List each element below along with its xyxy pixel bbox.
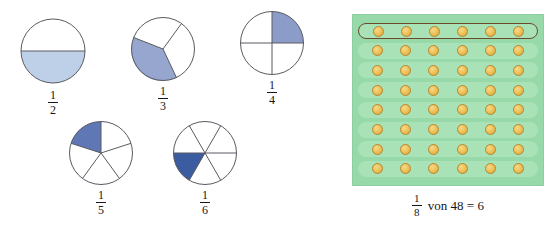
grid-dot bbox=[428, 124, 439, 135]
fraction-circle-one-third bbox=[130, 16, 196, 82]
fraction-item-one-quarter: 1 4 bbox=[239, 10, 305, 108]
grid-dot bbox=[428, 104, 439, 115]
grid-dot bbox=[485, 163, 496, 174]
dot-row bbox=[358, 122, 538, 138]
dot-row bbox=[358, 161, 538, 177]
grid-dot bbox=[401, 26, 412, 37]
grid-dot bbox=[457, 144, 468, 155]
fraction-label-one-half: 1 2 bbox=[48, 89, 58, 116]
fraction-numerator: 1 bbox=[158, 85, 168, 99]
grid-dot bbox=[513, 104, 524, 115]
grid-dot bbox=[485, 144, 496, 155]
fraction-denominator: 5 bbox=[96, 203, 106, 216]
dot-row-highlighted bbox=[358, 23, 538, 39]
grid-dot bbox=[428, 144, 439, 155]
grid-dot bbox=[457, 45, 468, 56]
fraction-circles-panel: 1 2 1 3 bbox=[0, 0, 340, 249]
dot-row bbox=[358, 43, 538, 59]
fraction-circle-one-half bbox=[18, 16, 88, 86]
fraction-circle-one-quarter bbox=[239, 10, 305, 76]
grid-dot bbox=[400, 85, 411, 96]
fraction-denominator: 4 bbox=[267, 93, 277, 106]
fraction-denominator: 6 bbox=[200, 203, 210, 216]
caption-numerator: 1 bbox=[412, 193, 422, 206]
grid-dot bbox=[372, 163, 383, 174]
grid-dot bbox=[428, 65, 439, 76]
grid-dot bbox=[400, 163, 411, 174]
grid-dot bbox=[457, 26, 468, 37]
fraction-item-one-sixth: 1 6 bbox=[172, 120, 238, 218]
caption-fraction: 1 8 bbox=[412, 193, 422, 218]
fraction-label-one-quarter: 1 4 bbox=[267, 79, 277, 106]
dot-row bbox=[358, 82, 538, 98]
grid-dot bbox=[428, 163, 439, 174]
dot-row bbox=[358, 141, 538, 157]
fraction-denominator: 3 bbox=[158, 99, 168, 112]
grid-dot bbox=[372, 65, 383, 76]
grid-dot bbox=[513, 124, 524, 135]
fraction-figure: 1 2 1 3 bbox=[0, 0, 557, 249]
fraction-circle-one-sixth bbox=[172, 120, 238, 186]
grid-dot bbox=[373, 26, 384, 37]
fraction-numerator: 1 bbox=[200, 189, 210, 203]
grid-dot bbox=[513, 163, 524, 174]
caption-denominator: 8 bbox=[412, 206, 422, 218]
grid-dot bbox=[372, 104, 383, 115]
grid-dot bbox=[457, 124, 468, 135]
grid-dot bbox=[513, 85, 524, 96]
fraction-label-one-sixth: 1 6 bbox=[200, 189, 210, 216]
grid-dot bbox=[513, 26, 524, 37]
dot-grid-panel bbox=[352, 14, 544, 186]
grid-dot bbox=[400, 65, 411, 76]
grid-dot bbox=[372, 124, 383, 135]
grid-dot bbox=[372, 144, 383, 155]
fraction-item-one-half: 1 2 bbox=[18, 16, 88, 118]
grid-dot bbox=[372, 85, 383, 96]
grid-dot bbox=[485, 65, 496, 76]
grid-dot bbox=[457, 65, 468, 76]
grid-dot bbox=[428, 45, 439, 56]
grid-dot bbox=[513, 144, 524, 155]
grid-dot bbox=[457, 104, 468, 115]
dot-grid-rows bbox=[358, 23, 538, 177]
grid-dot bbox=[513, 65, 524, 76]
fraction-item-one-fifth: 1 5 bbox=[68, 120, 134, 218]
grid-dot bbox=[428, 85, 439, 96]
dot-row bbox=[358, 62, 538, 78]
grid-dot bbox=[485, 26, 496, 37]
grid-dot bbox=[457, 85, 468, 96]
dot-grid-caption: 1 8 von 48 = 6 bbox=[352, 193, 544, 218]
fraction-numerator: 1 bbox=[267, 79, 277, 93]
fraction-denominator: 2 bbox=[48, 103, 58, 116]
grid-dot bbox=[400, 144, 411, 155]
dot-row bbox=[358, 102, 538, 118]
grid-dot bbox=[400, 104, 411, 115]
grid-dot bbox=[485, 124, 496, 135]
grid-dot bbox=[513, 45, 524, 56]
grid-dot bbox=[485, 45, 496, 56]
fraction-numerator: 1 bbox=[48, 89, 58, 103]
grid-dot bbox=[400, 45, 411, 56]
grid-dot bbox=[429, 26, 440, 37]
grid-dot bbox=[372, 45, 383, 56]
caption-text: von 48 = 6 bbox=[428, 198, 484, 214]
grid-dot bbox=[457, 163, 468, 174]
fraction-label-one-fifth: 1 5 bbox=[96, 189, 106, 216]
fraction-item-one-third: 1 3 bbox=[130, 16, 196, 114]
fraction-numerator: 1 bbox=[96, 189, 106, 203]
fraction-circle-one-fifth bbox=[68, 120, 134, 186]
grid-dot bbox=[485, 104, 496, 115]
grid-dot bbox=[400, 124, 411, 135]
fraction-label-one-third: 1 3 bbox=[158, 85, 168, 112]
grid-dot bbox=[485, 85, 496, 96]
